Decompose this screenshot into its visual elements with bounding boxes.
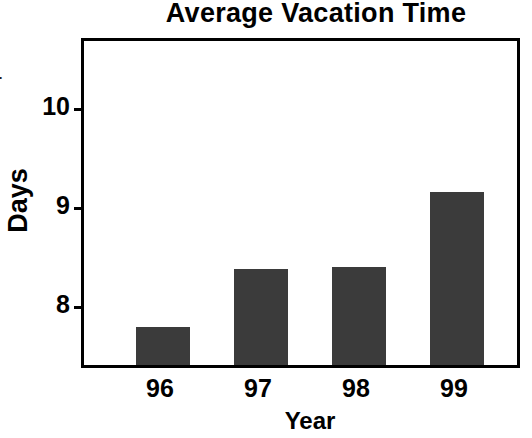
chart-screenshot: s y. Average Vacation Time Days 1098 969… (0, 0, 532, 438)
x-axis-tick-label: 98 (316, 374, 396, 403)
x-axis-title: Year (210, 407, 410, 435)
plot-area (84, 41, 517, 365)
y-axis-tick-label: 9 (24, 191, 70, 220)
plot-frame (81, 38, 520, 368)
y-axis-labels: 1098 (0, 0, 70, 438)
bar-99 (430, 192, 484, 365)
x-axis-tick-label: 99 (414, 374, 494, 403)
bar-97 (234, 269, 288, 365)
x-axis-tick-label: 97 (218, 374, 298, 403)
bar-98 (332, 267, 386, 365)
y-axis-tick-label: 8 (24, 290, 70, 319)
y-axis-tick-label: 10 (24, 92, 70, 121)
x-axis-tick-label: 96 (120, 374, 200, 403)
bar-96 (136, 327, 190, 365)
chart-title: Average Vacation Time (104, 0, 528, 29)
